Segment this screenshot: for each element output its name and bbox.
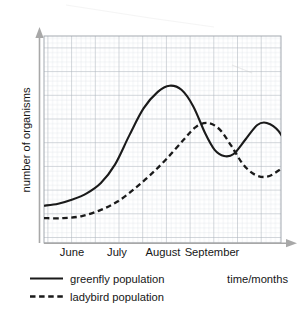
x-tick-label-july: July (107, 246, 127, 258)
legend-label-ladybird: ladybird population (70, 291, 164, 303)
x-tick-label-june: June (60, 246, 84, 258)
y-axis-title: number of organisms (20, 87, 32, 192)
chart-svg: number of organisms June July August Sep… (0, 0, 307, 316)
legend-label-greenfly: greenfly population (70, 273, 165, 285)
x-tick-label-september: September (185, 246, 240, 258)
x-axis-title: time/months (227, 273, 288, 285)
population-graph-figure: number of organisms June July August Sep… (0, 0, 307, 316)
x-tick-label-august: August (146, 246, 182, 258)
